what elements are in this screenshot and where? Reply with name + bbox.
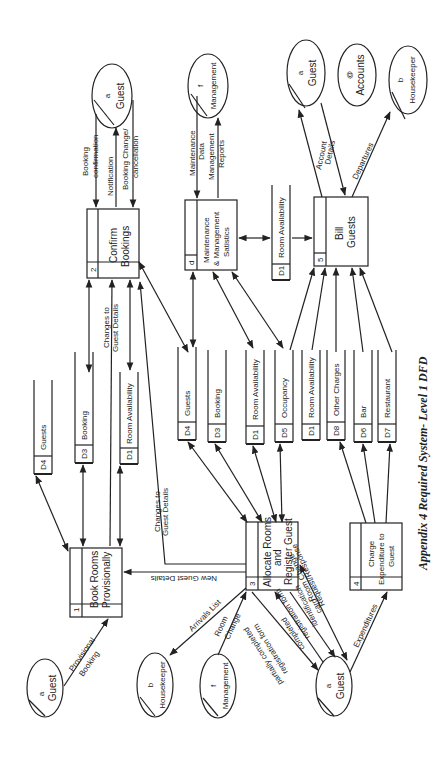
svg-text:New Guest Details: New Guest Details: [151, 574, 217, 583]
entity-guest-p3: a Guest: [316, 656, 352, 716]
svg-text:D8: D8: [332, 425, 341, 436]
process-label: Charge: [367, 540, 376, 567]
svg-text:D1: D1: [307, 425, 316, 436]
process-label: Bookings: [120, 226, 131, 267]
dfd-diagram: 1 Book Rooms Provisionally 2 Confirm Boo…: [0, 0, 445, 757]
svg-text:D1: D1: [251, 429, 260, 440]
svg-text:Departures: Departures: [351, 141, 376, 181]
process-id: 2: [89, 267, 98, 272]
svg-text:Other Charges: Other Charges: [332, 364, 341, 416]
svg-text:a: a: [324, 683, 333, 688]
process-id: d: [187, 261, 196, 265]
svg-text:D3: D3: [213, 427, 222, 438]
process-label: Guests: [346, 216, 357, 248]
svg-text:Management: Management: [207, 133, 216, 180]
svg-text:a: a: [296, 70, 305, 75]
svg-text:Reports: Reports: [217, 140, 226, 168]
process-label: Provisionally: [101, 552, 112, 608]
process-label: Guest: [387, 545, 396, 567]
svg-text:Guest Details: Guest Details: [111, 304, 120, 352]
svg-text:Management: Management: [221, 662, 230, 709]
entity-housekeeper-p3: b Housekeeper: [137, 653, 173, 717]
svg-text:Housekeeper: Housekeeper: [158, 661, 167, 709]
process-label: Book Rooms: [89, 551, 100, 608]
svg-text:Management: Management: [209, 62, 218, 109]
process-label: Confirm: [108, 228, 119, 263]
entity-guest-p2: a Guest: [92, 64, 132, 128]
svg-text:Room Availability: Room Availability: [251, 359, 260, 420]
svg-text:D5: D5: [280, 427, 289, 438]
process-5-bill-guests: 5 Bill Guests: [314, 197, 368, 266]
svg-text:Guests: Guests: [39, 425, 48, 450]
svg-text:Occupancy: Occupancy: [280, 378, 289, 418]
svg-text:D4: D4: [183, 425, 192, 436]
process-3-allocate-rooms: 3 Allocate Rooms and Register Guest: [246, 517, 298, 590]
svg-text:Housekeeper: Housekeeper: [408, 56, 417, 104]
entity-management-pd: f Management: [188, 54, 228, 118]
process-d-maintenance-stats: d Maintenance & Management Satistics: [185, 200, 237, 270]
svg-text:Guest Details: Guest Details: [161, 488, 170, 536]
store-mid-d7-restaurant: D7 Restaurant: [378, 350, 396, 442]
svg-text:D6: D6: [359, 427, 368, 438]
process-id: 3: [248, 581, 257, 586]
process-id: 4: [352, 581, 361, 586]
svg-text:Room Availability: Room Availability: [307, 357, 316, 418]
store-mid-d8-other-charges: D8 Other Charges: [327, 350, 345, 440]
svg-text:cancellation: cancellation: [131, 136, 140, 178]
store-mid-d3-booking: D3 Booking: [208, 350, 226, 442]
svg-text:Room Availability: Room Availability: [277, 197, 286, 258]
entity-guest-p1: a Guest: [27, 659, 63, 717]
entity-guest-p5: a Guest: [287, 40, 325, 108]
svg-text:D4: D4: [39, 459, 48, 470]
svg-text:Guests: Guests: [183, 391, 192, 416]
store-mid-d1-room-availability: D1 Room Availability: [246, 350, 264, 444]
process-label: Bill: [334, 227, 345, 240]
svg-text:D1: D1: [125, 449, 134, 460]
svg-text:Bar: Bar: [359, 405, 368, 418]
process-id: 1: [72, 607, 81, 612]
svg-text:Data: Data: [197, 143, 206, 160]
svg-text:Booking: Booking: [81, 147, 90, 176]
entity-accounts: @ Accounts: [338, 44, 376, 106]
svg-text:Guest: Guest: [115, 82, 126, 109]
svg-text:Maintenance: Maintenance: [188, 130, 197, 176]
svg-text:Room Availability: Room Availability: [125, 383, 134, 444]
svg-text:Booking: Booking: [213, 389, 222, 418]
svg-text:D7: D7: [383, 427, 392, 438]
process-4-charge-expenditure: 4 Charge Expenditure to Guest: [350, 523, 402, 590]
svg-text:b: b: [146, 682, 155, 687]
process-label: & Management: [212, 211, 221, 266]
svg-text:Changes to: Changes to: [102, 307, 111, 348]
diagram-caption: Appendix 4 Required System- Level 1 DFD: [416, 356, 430, 571]
svg-text:Restaurant: Restaurant: [383, 378, 392, 418]
store-top-d1-room-availability: D1 Room Availability: [272, 185, 290, 280]
store-left-d1-room-availability: D1 Room Availability: [120, 372, 138, 464]
svg-text:D3: D3: [80, 448, 89, 459]
store-mid-d4-guests: D4 Guests: [178, 347, 196, 440]
svg-text:b: b: [396, 77, 405, 82]
store-left-d4-guests: D4 Guests: [34, 380, 52, 474]
process-1-book-rooms: 1 Book Rooms Provisionally: [70, 548, 122, 617]
svg-text:Booking Change/: Booking Change/: [121, 128, 130, 190]
svg-text:a: a: [103, 93, 112, 98]
process-label: Maintenance: [202, 217, 211, 263]
store-mid-d6-bar: D6 Bar: [354, 350, 372, 442]
svg-text:a: a: [37, 691, 46, 696]
process-label: Expenditure to: [377, 533, 386, 585]
svg-text:Guest: Guest: [307, 59, 318, 86]
process-id: 5: [316, 257, 325, 262]
svg-text:Booking: Booking: [80, 411, 89, 440]
entity-housekeeper-p5: b Housekeeper: [389, 46, 427, 119]
svg-text:Guest: Guest: [47, 674, 58, 701]
svg-text:@: @: [345, 71, 354, 79]
store-left-d3-booking: D3 Booking: [75, 352, 93, 463]
store-mid-d1-room-availability-2: D1 Room Availability: [302, 350, 320, 440]
process-2-confirm-bookings: 2 Confirm Bookings: [87, 209, 139, 278]
entity-management-p3: f Management: [200, 654, 236, 718]
svg-text:D1: D1: [277, 265, 286, 276]
svg-text:Accounts: Accounts: [355, 54, 366, 95]
svg-text:Notification: Notification: [106, 156, 115, 196]
process-label: and: [272, 549, 283, 566]
store-mid-d5-occupancy: D5 Occupancy: [275, 350, 293, 442]
process-label: Satistics: [222, 227, 231, 257]
